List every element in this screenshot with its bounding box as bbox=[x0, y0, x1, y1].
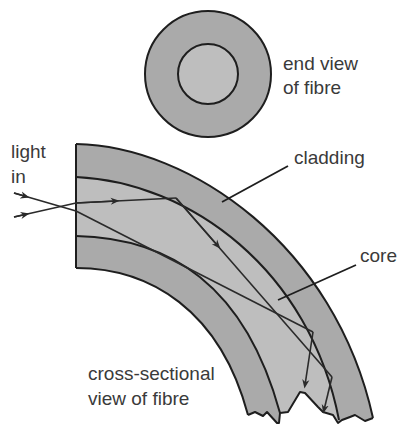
cladding-leader-line bbox=[222, 166, 288, 202]
light-in-label-line1: light bbox=[11, 141, 47, 162]
end-view-core bbox=[178, 44, 238, 104]
cladding-label: cladding bbox=[294, 147, 365, 168]
end-view-label-line2: of fibre bbox=[283, 77, 341, 98]
cross-section-label-line1: cross-sectional bbox=[88, 363, 215, 384]
end-view bbox=[145, 11, 271, 137]
light-in-label-line2: in bbox=[11, 166, 26, 187]
ray-b-arrow-in bbox=[14, 193, 26, 197]
end-view-label-line1: end view bbox=[283, 53, 358, 74]
ray-a-arrow-in bbox=[14, 214, 26, 217]
optical-fibre-diagram: end view of fibre light in cladding bbox=[0, 0, 400, 444]
core-label: core bbox=[360, 245, 397, 266]
cross-section-label-line2: view of fibre bbox=[88, 388, 189, 409]
